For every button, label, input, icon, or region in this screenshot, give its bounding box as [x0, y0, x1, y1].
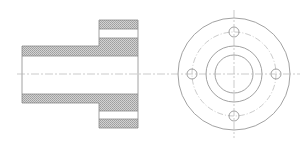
centerlines [17, 10, 300, 138]
shaft-wall-top-hatch [22, 46, 99, 56]
shaft-wall-bottom-hatch [22, 94, 99, 103]
flange-top-hatch [99, 20, 138, 29]
flange-bottom-hatch [99, 119, 138, 128]
drawing-canvas [0, 0, 308, 145]
flange-upper-hatch [99, 38, 138, 56]
flange-lower-hatch [99, 94, 138, 111]
technical-drawing [0, 0, 308, 145]
